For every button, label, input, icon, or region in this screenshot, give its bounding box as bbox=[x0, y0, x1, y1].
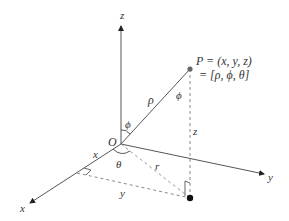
point-p bbox=[187, 66, 192, 71]
spherical-coordinates-diagram: z y x O ρ ϕ ϕ θ r z x y P = (x, y, z) = … bbox=[0, 0, 289, 221]
theta-label: θ bbox=[116, 158, 122, 170]
x-axis-label: x bbox=[19, 202, 25, 214]
y-axis-label: y bbox=[267, 171, 273, 183]
origin-label: O bbox=[108, 135, 117, 149]
right-angle-mark-x bbox=[84, 168, 91, 175]
foot-point bbox=[187, 195, 193, 201]
rho-segment bbox=[121, 69, 190, 144]
rho-label: ρ bbox=[147, 93, 154, 107]
y-axis bbox=[121, 144, 264, 174]
right-angle-mark-foot bbox=[185, 181, 190, 196]
z-axis-label: z bbox=[119, 9, 125, 21]
phi-point-label: ϕ bbox=[176, 89, 182, 101]
point-p-coordinates-line1: P = (x, y, z) bbox=[195, 54, 252, 68]
point-p-coordinates-line2: = [ρ, ϕ, θ] bbox=[199, 68, 250, 82]
y-coord-label: y bbox=[119, 187, 125, 199]
phi-arc-origin bbox=[121, 130, 130, 134]
phi-origin-label: ϕ bbox=[125, 118, 131, 130]
r-label: r bbox=[155, 160, 160, 172]
x-axis bbox=[30, 144, 121, 203]
z-height-label: z bbox=[192, 125, 198, 137]
theta-arc bbox=[113, 149, 130, 154]
y-coord-dashed bbox=[77, 173, 190, 198]
x-coord-label: x bbox=[92, 148, 98, 160]
